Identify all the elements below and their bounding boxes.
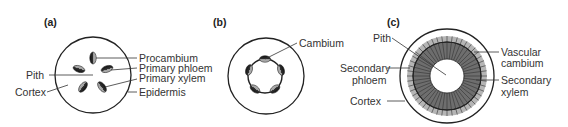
label-secondary-phloem-line2: phloem <box>352 74 387 86</box>
panel-a: (a) Procambium Primary phloem Primary xy… <box>15 16 213 113</box>
label-cortex: Cortex <box>350 95 382 107</box>
label-pith: Pith <box>26 69 44 81</box>
label-secondary-xylem-line2: xylem <box>501 86 529 98</box>
label-pith: Pith <box>373 32 391 44</box>
panel-c-label: (c) <box>387 16 400 28</box>
label-secondary-xylem-line1: Secondary <box>501 74 552 86</box>
label-primary-xylem: Primary xylem <box>139 72 206 84</box>
label-secondary-phloem-line1: Secondary <box>340 62 391 74</box>
label-vascular-cambium-line2: cambium <box>501 57 544 69</box>
label-cortex: Cortex <box>15 86 47 98</box>
panel-a-label: (a) <box>44 16 57 28</box>
bundle-top <box>90 52 96 64</box>
panel-b-label: (b) <box>213 16 226 28</box>
panel-b: (b) Cambium <box>213 16 344 114</box>
panel-c: (c) Pith Secondary phloem Cortex Vascula… <box>340 16 552 123</box>
pith <box>430 59 464 93</box>
stem-outline <box>228 38 304 114</box>
label-cambium: Cambium <box>299 37 344 49</box>
label-epidermis: Epidermis <box>139 86 186 98</box>
stem-development-diagram: (a) Procambium Primary phloem Primary xy… <box>0 0 568 127</box>
